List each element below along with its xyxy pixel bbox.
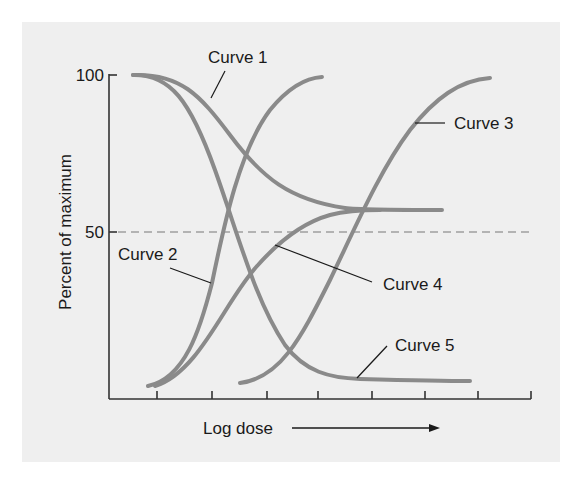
y-axis-label: Percent of maximum <box>56 154 75 310</box>
y-tick-label-50: 50 <box>85 223 104 242</box>
curve-3-label: Curve 3 <box>454 114 514 133</box>
curve-1-leader <box>211 71 225 98</box>
dose-response-chart: 100 50 Percent of maximum Log dose Curve… <box>0 0 572 479</box>
x-axis-label: Log dose <box>203 419 273 438</box>
curve-4-label: Curve 4 <box>383 275 443 294</box>
x-direction-arrow <box>292 424 440 432</box>
curve-4-leader <box>275 245 372 282</box>
curve-5-leader <box>357 346 387 378</box>
curve-5-label: Curve 5 <box>395 336 455 355</box>
curve-2-label: Curve 2 <box>118 245 178 264</box>
curve-1-label: Curve 1 <box>208 48 268 67</box>
x-ticks <box>157 391 531 399</box>
curve-2-leader <box>170 268 211 283</box>
curve-4-line <box>155 210 380 386</box>
y-tick-label-100: 100 <box>76 66 104 85</box>
